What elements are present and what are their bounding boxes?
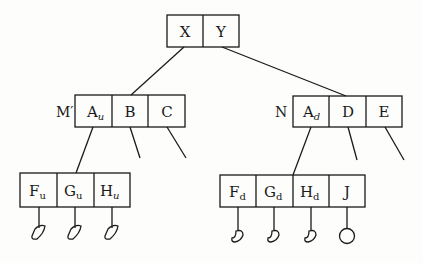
cell-f-d: Fd: [229, 183, 246, 202]
cell-f-u: Fu: [29, 182, 46, 201]
cell-a-d: Ad: [302, 103, 320, 122]
node-root: X Y: [167, 15, 239, 47]
node-fghj-d: Fd Gd Hd J: [220, 175, 365, 207]
cell-c: C: [161, 103, 172, 121]
cell-x: X: [180, 23, 191, 41]
tree-diagram: X Y M′ Au B C N Ad D E Fu Gu Hu Fd Gd H: [0, 0, 423, 263]
node-fgh-u: Fu Gu Hu: [20, 173, 130, 207]
edge-e-subtree: [385, 127, 404, 160]
half-filled-leaf-icon: [232, 231, 243, 243]
cell-d: D: [342, 103, 354, 121]
cell-y: Y: [215, 23, 227, 41]
node-label-n: N: [275, 104, 287, 120]
half-filled-leaf-icon: [268, 231, 279, 243]
edge-ad-to-fghj-d: [293, 127, 311, 175]
cell-b: B: [124, 103, 135, 121]
cell-e: E: [379, 103, 390, 121]
circle-leaf-icon: [340, 229, 355, 244]
cell-g-u: Gu: [64, 182, 83, 201]
cell-h-d: Hd: [300, 183, 320, 202]
cell-j: J: [342, 183, 350, 201]
edge-d-subtree: [348, 127, 357, 160]
edge-b-subtree: [130, 127, 140, 158]
node-m-prime: Au B C: [75, 95, 185, 127]
half-filled-leaf-icon: [305, 231, 316, 243]
node-label-m-prime: M′: [56, 104, 74, 120]
edge-root-left: [131, 47, 184, 95]
cell-a-u: Au: [86, 103, 104, 122]
cell-h-u: Hu: [100, 182, 120, 201]
edge-au-to-fgh-u: [76, 127, 93, 173]
edge-c-subtree: [167, 127, 186, 158]
node-n: Ad D E: [293, 96, 402, 127]
edge-root-right: [222, 47, 346, 96]
cell-g-d: Gd: [264, 183, 283, 202]
